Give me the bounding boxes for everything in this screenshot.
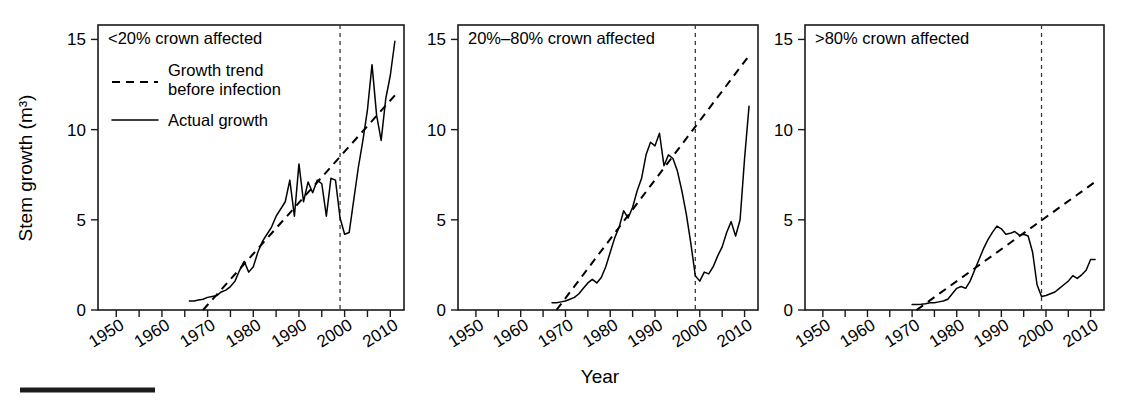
- x-tick-label: 1950: [85, 315, 127, 351]
- y-axis-title: Stem growth (m³): [15, 95, 36, 242]
- x-tick-label: 1980: [222, 315, 264, 351]
- x-tick-label: 1950: [792, 315, 834, 351]
- x-tick-label: 2000: [1015, 315, 1057, 351]
- y-tick-label: 10: [427, 121, 446, 140]
- x-tick-label: 1960: [836, 315, 878, 351]
- x-tick-label: 1990: [624, 315, 666, 351]
- x-tick-label: 1980: [926, 315, 968, 351]
- y-tick-label: 15: [427, 30, 446, 49]
- panel-1: 051015195019601970198019902000201020%–80…: [427, 25, 758, 351]
- x-tick-label: 1960: [131, 315, 173, 351]
- x-tick-label: 1990: [268, 315, 310, 351]
- x-tick-label: 1970: [534, 315, 576, 351]
- x-axis-title: Year: [581, 366, 620, 387]
- legend: Growth trendbefore infectionActual growt…: [112, 61, 281, 129]
- legend-label-actual: Actual growth: [168, 111, 268, 129]
- x-tick-label: 1960: [490, 315, 532, 351]
- trend-line-series: [917, 182, 1095, 310]
- x-tick-label: 2010: [714, 315, 756, 351]
- plot-frame: [805, 25, 1104, 310]
- legend-label-trend-line2: before infection: [168, 80, 281, 98]
- trend-line-series: [557, 56, 750, 310]
- x-tick-label: 2000: [669, 315, 711, 351]
- panel-2: 0510151950196019701980199020002010>80% c…: [774, 25, 1104, 351]
- y-tick-label: 5: [77, 211, 86, 230]
- x-tick-label: 2010: [359, 315, 401, 351]
- y-tick-label: 0: [77, 301, 86, 320]
- y-tick-label: 0: [784, 301, 793, 320]
- x-tick-label: 1980: [579, 315, 621, 351]
- x-tick-label: 2000: [314, 315, 356, 351]
- panel-title: 20%–80% crown affected: [468, 29, 655, 47]
- panel-title: >80% crown affected: [815, 29, 969, 47]
- panel-title: <20% crown affected: [108, 29, 262, 47]
- y-tick-label: 10: [67, 121, 86, 140]
- y-tick-label: 5: [784, 211, 793, 230]
- actual-growth-series: [552, 106, 749, 303]
- y-tick-label: 5: [437, 211, 446, 230]
- y-tick-label: 10: [774, 121, 793, 140]
- x-tick-label: 1990: [970, 315, 1012, 351]
- y-tick-label: 15: [774, 30, 793, 49]
- x-tick-label: 2010: [1060, 315, 1102, 351]
- legend-label-trend-line1: Growth trend: [168, 61, 263, 79]
- multi-panel-line-chart: 0510151950196019701980199020002010<20% c…: [0, 0, 1129, 404]
- figure-container: 0510151950196019701980199020002010<20% c…: [0, 0, 1129, 404]
- y-tick-label: 15: [67, 30, 86, 49]
- y-tick-label: 0: [437, 301, 446, 320]
- x-tick-label: 1950: [445, 315, 487, 351]
- x-tick-label: 1970: [881, 315, 923, 351]
- x-tick-label: 1970: [177, 315, 219, 351]
